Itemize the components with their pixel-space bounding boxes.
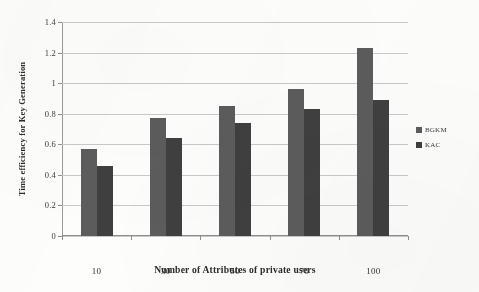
y-tick-label: 0.6 <box>45 139 56 149</box>
y-axis-title: Time efficiency for Key Generation <box>14 22 30 236</box>
gridline <box>62 22 408 23</box>
x-tick-mark <box>131 236 132 240</box>
bar-kac-50 <box>235 123 251 236</box>
y-tick-mark <box>58 83 62 84</box>
y-tick-mark <box>58 22 62 23</box>
bar-kac-30 <box>166 138 182 236</box>
legend-label: BGKM <box>425 126 447 134</box>
gridline <box>62 53 408 54</box>
bar-kac-10 <box>97 166 113 236</box>
bar-chart-figure: Time efficiency for Key Generation 00.20… <box>0 0 479 292</box>
bar-bgkm-50 <box>219 106 235 236</box>
y-tick-mark <box>58 53 62 54</box>
bar-kac-70 <box>304 109 320 236</box>
gridline <box>62 114 408 115</box>
gridline <box>62 236 408 237</box>
bar-bgkm-100 <box>357 48 373 236</box>
y-tick-label: 0.2 <box>45 200 56 210</box>
legend-item-bgkm[interactable]: BGKM <box>416 126 447 134</box>
bar-bgkm-10 <box>81 149 97 236</box>
y-tick-label: 1.4 <box>45 17 56 27</box>
y-axis-line <box>62 22 63 236</box>
x-tick-mark <box>200 236 201 240</box>
bar-bgkm-30 <box>150 118 166 236</box>
y-tick-mark <box>58 175 62 176</box>
x-tick-mark <box>339 236 340 240</box>
bar-bgkm-70 <box>288 89 304 236</box>
legend-item-kac[interactable]: KAC <box>416 141 447 149</box>
bar-kac-100 <box>373 100 389 236</box>
legend-label: KAC <box>425 141 440 149</box>
legend-swatch-icon <box>416 142 422 148</box>
gridline <box>62 83 408 84</box>
y-tick-mark <box>58 144 62 145</box>
y-tick-mark <box>58 205 62 206</box>
x-tick-mark <box>408 236 409 240</box>
chart-legend: BGKMKAC <box>416 126 447 149</box>
legend-swatch-icon <box>416 127 422 133</box>
y-tick-label: 0 <box>52 231 56 241</box>
x-tick-mark <box>62 236 63 240</box>
y-tick-label: 1 <box>52 78 56 88</box>
plot-area: 00.20.40.60.811.21.4 10305070100 <box>62 22 408 236</box>
y-tick-label: 1.2 <box>45 48 56 58</box>
y-tick-label: 0.8 <box>45 109 56 119</box>
y-tick-mark <box>58 114 62 115</box>
y-tick-label: 0.4 <box>45 170 56 180</box>
x-tick-mark <box>270 236 271 240</box>
x-axis-title: Number of Attributes of private users <box>62 264 408 275</box>
